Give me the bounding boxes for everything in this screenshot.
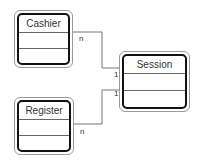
class-cashier-body: Cashier bbox=[17, 13, 70, 65]
class-session[interactable]: Session bbox=[119, 51, 190, 112]
class-cashier-operations bbox=[19, 49, 68, 64]
class-cashier[interactable]: Cashier bbox=[14, 10, 73, 68]
class-session-attributes bbox=[124, 74, 185, 91]
multiplicity-session-register: 1 bbox=[114, 89, 118, 98]
class-register-operations bbox=[19, 136, 69, 151]
register-session-association bbox=[74, 90, 119, 124]
multiplicity-session-cashier: 1 bbox=[114, 70, 118, 79]
class-cashier-name: Cashier bbox=[19, 15, 68, 33]
class-session-name: Session bbox=[124, 56, 185, 74]
multiplicity-cashier: n bbox=[79, 34, 83, 43]
class-session-body: Session bbox=[122, 54, 187, 109]
class-register-attributes bbox=[19, 120, 69, 136]
class-cashier-attributes bbox=[19, 33, 68, 49]
class-session-operations bbox=[124, 91, 185, 107]
multiplicity-register: n bbox=[80, 127, 84, 136]
class-register-name: Register bbox=[19, 102, 69, 120]
class-register[interactable]: Register bbox=[14, 97, 74, 155]
class-register-body: Register bbox=[17, 100, 71, 152]
